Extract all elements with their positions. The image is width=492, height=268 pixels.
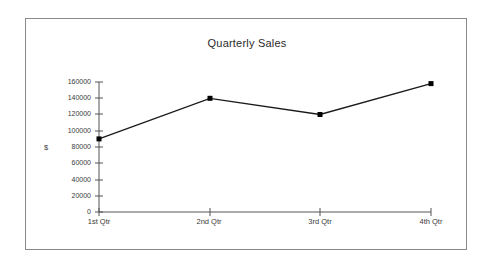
chart-frame: Quarterly Sales $ 160000 140000 120000 1… xyxy=(25,18,467,250)
plot-area xyxy=(26,19,468,251)
data-point-markers xyxy=(97,81,434,141)
data-point-2nd-qtr xyxy=(208,96,213,101)
data-point-3rd-qtr xyxy=(318,112,323,117)
data-series-line xyxy=(99,84,431,139)
data-point-4th-qtr xyxy=(429,81,434,86)
chart-screenshot: Quarterly Sales $ 160000 140000 120000 1… xyxy=(0,0,492,268)
data-point-1st-qtr xyxy=(97,136,102,141)
